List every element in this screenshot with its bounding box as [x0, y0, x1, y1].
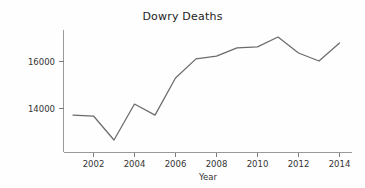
y-tick-label-14000: 14000 [28, 104, 55, 114]
x-tick-label-2010: 2010 [247, 159, 269, 169]
x-tick-label-2004: 2004 [124, 159, 146, 169]
data-series-line [73, 37, 340, 140]
y-tick-label-16000: 16000 [28, 57, 55, 67]
line-chart-plot: 16000 14000 2002 2004 2006 2008 2010 201… [0, 0, 365, 188]
x-tick-label-2012: 2012 [288, 159, 310, 169]
x-tick-label-2014: 2014 [329, 159, 351, 169]
chart-figure: Dowry Deaths 16000 14000 2002 2004 2006 … [0, 0, 365, 188]
x-axis-title: Year [198, 172, 218, 182]
x-tick-label-2006: 2006 [165, 159, 187, 169]
x-tick-label-2002: 2002 [83, 159, 105, 169]
x-tick-label-2008: 2008 [206, 159, 228, 169]
